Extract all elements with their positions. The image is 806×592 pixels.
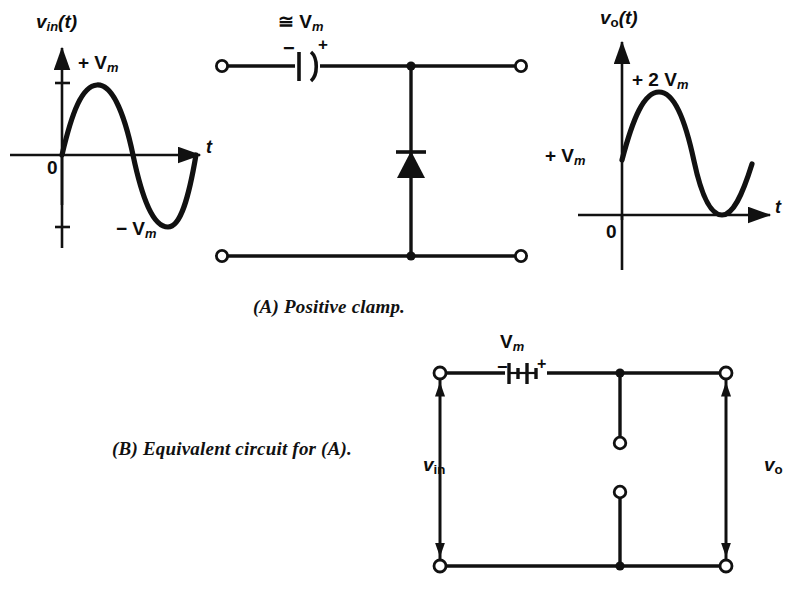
battery-plus-sign: + — [537, 356, 546, 372]
input-graph-peak-negative-label: − Vm — [116, 219, 157, 241]
equiv-junction-dot-top — [615, 368, 624, 377]
caption-part-a: (A) Positive clamp. — [253, 296, 405, 318]
capacitor-plate-right — [311, 52, 316, 81]
battery-minus-sign: − — [497, 358, 508, 376]
input-graph-x-axis-label: t — [206, 138, 212, 156]
equiv-terminal-output-top — [720, 367, 732, 379]
equiv-terminal-input-bottom — [434, 560, 446, 572]
output-graph-x-axis-label: t — [775, 198, 781, 216]
junction-dot-bottom — [406, 251, 415, 260]
output-graph-start-level-label: + Vm — [545, 146, 586, 168]
capacitor-value-label: ≅ Vm — [278, 12, 323, 34]
caption-part-b: (B) Equivalent circuit for (A). — [112, 438, 352, 460]
clamp-circuit — [216, 52, 526, 262]
output-graph-peak-label: + 2 Vm — [632, 70, 688, 92]
figure-root: vin(t) + Vm − Vm 0 t ≅ Vm − + vo(t) + 2 … — [0, 0, 806, 592]
diode-anode-triangle — [397, 151, 425, 178]
output-graph-origin-label: 0 — [606, 222, 617, 241]
capacitor-plus-sign: + — [318, 36, 328, 53]
switch-terminal-lower — [614, 486, 626, 498]
capacitor-minus-sign: − — [283, 38, 295, 58]
equivalent-circuit-input-label: vin — [423, 455, 445, 476]
junction-dot-top — [406, 61, 415, 70]
battery-value-label: Vm — [500, 332, 524, 354]
switch-terminal-upper — [614, 437, 626, 449]
terminal-input-top — [216, 60, 227, 71]
input-graph-y-axis-label: vin(t) — [36, 12, 77, 34]
equivalent-circuit — [434, 363, 732, 572]
terminal-input-bottom — [216, 250, 227, 261]
output-graph-y-axis-label: vo(t) — [600, 8, 638, 29]
equiv-junction-dot-bottom — [615, 561, 624, 570]
equiv-terminal-output-bottom — [720, 560, 732, 572]
terminal-output-bottom — [515, 250, 526, 261]
input-waveform-graph — [10, 48, 200, 248]
equiv-terminal-input-top — [434, 367, 446, 379]
output-waveform-curve — [622, 92, 752, 215]
input-graph-peak-positive-label: + Vm — [78, 53, 119, 75]
input-graph-origin-label: 0 — [47, 158, 58, 177]
equivalent-circuit-output-label: vo — [764, 455, 783, 476]
terminal-output-top — [515, 60, 526, 71]
